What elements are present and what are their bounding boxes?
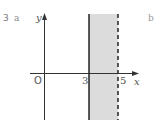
origin-label: O (34, 76, 42, 86)
tick-label-3: 3 (82, 76, 88, 86)
tick-label-5: 5 (120, 76, 126, 86)
shaded-region (89, 14, 118, 120)
y-axis-label: y (36, 13, 42, 23)
y-axis-arrow-icon (42, 13, 47, 20)
inequality-graph (0, 0, 161, 120)
x-axis-label: x (134, 77, 140, 87)
